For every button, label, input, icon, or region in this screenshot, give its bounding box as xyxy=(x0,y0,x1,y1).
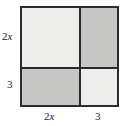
label-bottom-left-variable: x xyxy=(50,110,55,122)
horizontal-divider-line xyxy=(22,67,117,69)
area-model-figure: 2x 3 2x 3 xyxy=(0,0,126,126)
label-left-bottom: 3 xyxy=(7,79,13,90)
label-left-top: 2x xyxy=(2,31,12,42)
region-bottom-left xyxy=(22,69,79,105)
region-top-left xyxy=(22,8,79,67)
vertical-divider-line xyxy=(79,8,81,105)
region-top-right xyxy=(81,8,117,67)
region-bottom-right xyxy=(81,69,117,105)
label-bottom-right: 3 xyxy=(95,111,101,122)
label-left-top-variable: x xyxy=(8,30,13,42)
label-bottom-left: 2x xyxy=(44,111,54,122)
outer-square xyxy=(20,6,119,107)
